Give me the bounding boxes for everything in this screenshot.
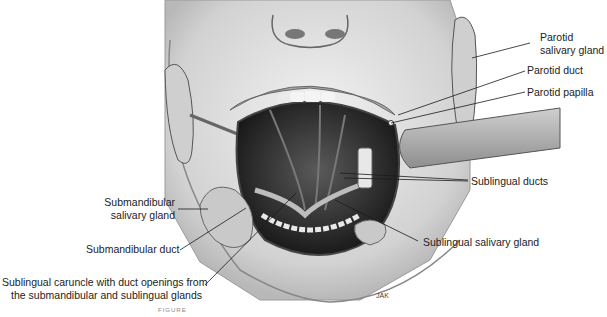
label-sublingual-salivary-gland: Sublingual salivary gland [423,236,539,249]
anatomy-illustration: JAK [0,0,607,317]
label-parotid-papilla: Parotid papilla [527,86,594,99]
label-parotid-salivary-gland: Parotid salivary gland [540,31,604,57]
artist-signature: JAK [376,292,389,299]
label-submandibular-duct: Submandibular duct [86,243,179,256]
label-parotid-duct: Parotid duct [527,64,583,77]
label-sublingual-caruncle: Sublingual caruncle with duct openings f… [2,276,202,302]
figure-caption: FIGURE [158,307,187,313]
label-sublingual-ducts: Sublingual ducts [471,175,548,188]
label-submandibular-salivary-gland: Submandibular salivary gland [78,196,175,222]
